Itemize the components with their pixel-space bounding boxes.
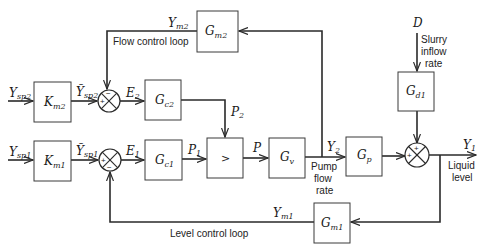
pump-label-1: Pump bbox=[311, 161, 338, 172]
summing-junction-flow: + − bbox=[98, 89, 120, 112]
block-gv: Gv bbox=[269, 138, 305, 178]
block-gm2: Gm2 bbox=[197, 11, 238, 52]
slurry-label-2: inflow bbox=[421, 46, 447, 57]
block-gc1: Gc1 bbox=[145, 140, 182, 180]
svg-text:+: + bbox=[100, 97, 105, 106]
block-km1: Km1 bbox=[34, 141, 71, 181]
slurry-label-3: rate bbox=[425, 58, 443, 69]
label-ym1: Ym1 bbox=[273, 206, 294, 221]
svg-text:+: + bbox=[414, 144, 419, 153]
liquid-label-1: Liquid bbox=[448, 160, 475, 171]
svg-text:−: − bbox=[106, 89, 111, 98]
slurry-label-1: Slurry bbox=[421, 34, 447, 45]
block-gd1: Gd1 bbox=[398, 72, 434, 111]
block-selector: > bbox=[207, 138, 243, 178]
block-km2: Km2 bbox=[34, 82, 71, 122]
wires bbox=[8, 31, 476, 222]
label-p1: P1 bbox=[187, 143, 201, 158]
svg-text:+: + bbox=[407, 151, 412, 160]
label-p: P bbox=[252, 141, 262, 155]
label-ym2: Ym2 bbox=[168, 16, 189, 31]
label-ysp2-tilde: Ỹsp2 bbox=[76, 84, 98, 100]
level-control-loop-label: Level control loop bbox=[170, 228, 249, 239]
p2-arrow bbox=[181, 100, 225, 137]
svg-text:+: + bbox=[101, 156, 106, 165]
flow-control-loop-label: Flow control loop bbox=[113, 36, 189, 47]
label-e1: E1 bbox=[125, 144, 140, 159]
label-p2: P2 bbox=[230, 105, 244, 120]
label-y2: Y2 bbox=[327, 140, 340, 155]
label-ysp1-tilde: Ỹsp1 bbox=[76, 143, 98, 159]
block-diagram: Km2 Km1 Gc2 Gc1 > Gv Gp Gd1 Gm2 Gm1 bbox=[0, 0, 485, 252]
svg-text:>: > bbox=[221, 152, 230, 165]
summing-junction-output: + + bbox=[405, 143, 429, 167]
liquid-label-2: level bbox=[452, 172, 473, 183]
block-gp: Gp bbox=[346, 137, 382, 176]
label-ysp1: Ysp1 bbox=[9, 145, 31, 160]
block-gc2: Gc2 bbox=[145, 80, 181, 120]
label-d: D bbox=[412, 16, 423, 30]
pump-label-2: flow bbox=[314, 173, 333, 184]
label-y1: Y1 bbox=[463, 138, 476, 153]
label-ysp2: Ysp2 bbox=[9, 86, 31, 101]
summing-junction-level: + − bbox=[99, 149, 121, 172]
svg-text:−: − bbox=[107, 163, 112, 172]
block-gm1: Gm1 bbox=[314, 203, 350, 243]
label-e2: E2 bbox=[125, 86, 140, 101]
pump-label-3: rate bbox=[316, 185, 334, 196]
